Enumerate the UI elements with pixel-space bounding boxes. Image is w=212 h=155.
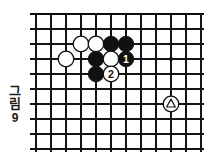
caption-char-2: 림: [4, 97, 26, 110]
stone-white[interactable]: [58, 51, 74, 67]
stone-disc: [58, 51, 74, 67]
stone-white[interactable]: [88, 36, 104, 52]
figure-caption: 그 림 9: [4, 84, 26, 125]
stone-disc: [163, 96, 179, 112]
board-grid-layer: [30, 14, 204, 152]
board-star-points-layer: [169, 57, 173, 61]
stone-disc: [73, 36, 89, 52]
stone-black[interactable]: [88, 66, 104, 82]
stone-disc: [88, 36, 104, 52]
stone-white[interactable]: [73, 36, 89, 52]
stone-black-move-1[interactable]: 1: [118, 51, 134, 67]
stone-disc: [88, 66, 104, 82]
caption-number: 9: [4, 111, 26, 125]
stone-disc: [118, 36, 134, 52]
stone-disc: [103, 51, 119, 67]
stone-black[interactable]: [103, 36, 119, 52]
stone-white[interactable]: [163, 96, 179, 112]
stone-move-number: 2: [108, 68, 114, 80]
go-board-canvas[interactable]: 12: [28, 6, 204, 152]
go-board[interactable]: 12: [28, 6, 204, 152]
stone-disc: [88, 51, 104, 67]
stone-move-number: 1: [123, 53, 129, 65]
stone-white-move-2[interactable]: 2: [103, 66, 119, 82]
stone-black[interactable]: [118, 36, 134, 52]
stone-white[interactable]: [103, 51, 119, 67]
star-point: [169, 57, 173, 61]
go-diagram-figure: 그 림 9 12: [0, 0, 212, 155]
stone-disc: [103, 36, 119, 52]
stone-black[interactable]: [88, 51, 104, 67]
